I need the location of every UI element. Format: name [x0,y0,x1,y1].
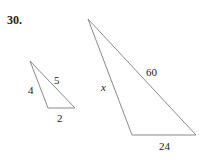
large-hypotenuse-label: 60 [146,67,157,78]
small-triangle [30,61,75,108]
small-base-label: 2 [57,113,63,124]
small-left-side-label: 4 [28,85,34,96]
small-hypotenuse-label: 5 [54,75,60,86]
triangles-figure [0,0,199,159]
large-base-label: 24 [159,141,170,152]
large-triangle [88,19,196,135]
large-left-side-label: x [101,82,106,93]
